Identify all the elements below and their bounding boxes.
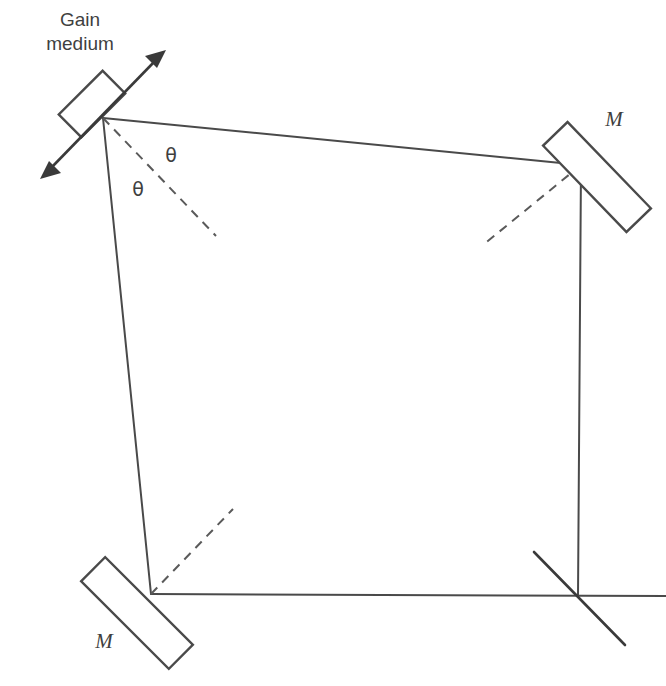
beam-segment-right (578, 165, 581, 596)
angle-label-upper: θ (165, 144, 177, 166)
surface-normals-group (103, 118, 581, 594)
pump-arrow-head-lower-icon (40, 161, 61, 179)
normal-gain-medium-icon (103, 118, 216, 236)
diagram-canvas: Gain medium M M θ θ (0, 0, 666, 686)
beam-path-group (103, 118, 666, 596)
normal-bottom-left-mirror-icon (151, 509, 233, 594)
mirror-bottom-left-label: M (94, 629, 114, 653)
beam-segment-bottom (151, 594, 666, 596)
mirror-top-right-element (543, 122, 651, 232)
gain-medium-label-line1: Gain (60, 9, 100, 30)
ring-laser-diagram: Gain medium M M θ θ (0, 0, 666, 686)
mirror-top-right-body (543, 122, 651, 232)
mirror-top-right-label: M (604, 107, 624, 131)
pump-arrow-head-upper-icon (145, 50, 166, 68)
output-coupler-icon (534, 552, 625, 645)
angle-label-lower: θ (132, 178, 144, 200)
normal-top-right-mirror-icon (483, 165, 581, 245)
gain-medium-label-line2: medium (46, 33, 114, 54)
